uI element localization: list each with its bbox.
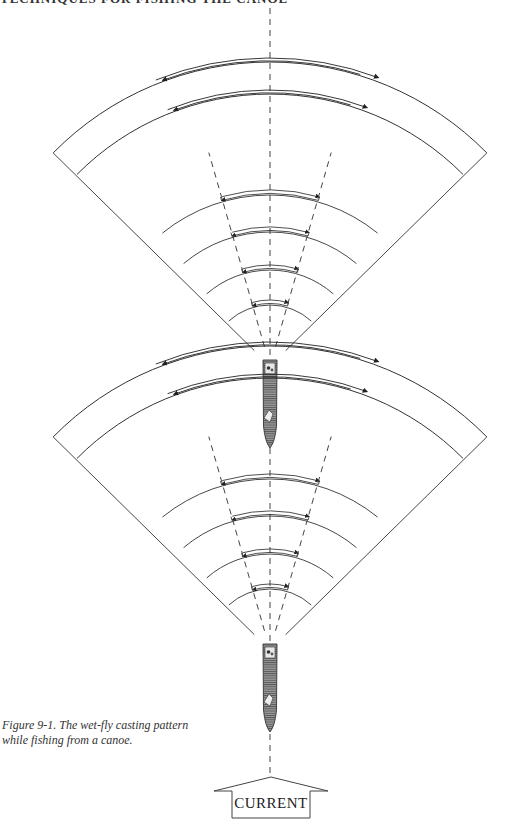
angler-head-icon <box>267 650 271 654</box>
angler-hand-icon <box>271 653 274 656</box>
current-label: CURRENT <box>212 795 330 812</box>
sector-edge-right <box>286 153 487 351</box>
caption-line-1: Figure 9-1. The wet-fly casting pattern <box>2 718 202 733</box>
inner-arc <box>184 516 357 548</box>
angler-head-icon <box>267 366 271 370</box>
arc-tick <box>231 233 232 236</box>
sector-edge-left <box>53 437 254 635</box>
canoe-icon <box>263 644 277 732</box>
cast-arrow-right-icon <box>252 300 288 303</box>
casting-pattern-diagram <box>0 0 513 833</box>
cast-arrow-right-icon <box>156 58 379 80</box>
canoe-icon <box>263 360 277 448</box>
figure-caption: Figure 9-1. The wet-fly casting pattern … <box>2 718 202 748</box>
sector-edge-left <box>53 153 254 351</box>
arc-tick <box>308 233 309 236</box>
arc-tick <box>308 517 309 520</box>
dashed-line-right <box>276 437 332 631</box>
dashed-line-left <box>209 437 265 631</box>
angler-hand-icon <box>271 369 274 372</box>
caption-line-2: while fishing from a canoe. <box>2 733 202 748</box>
sector-edge-right <box>286 437 487 635</box>
arc-tick <box>231 517 232 520</box>
inner-arc <box>184 232 357 264</box>
dashed-line-right <box>276 153 332 347</box>
dashed-line-left <box>209 153 265 347</box>
